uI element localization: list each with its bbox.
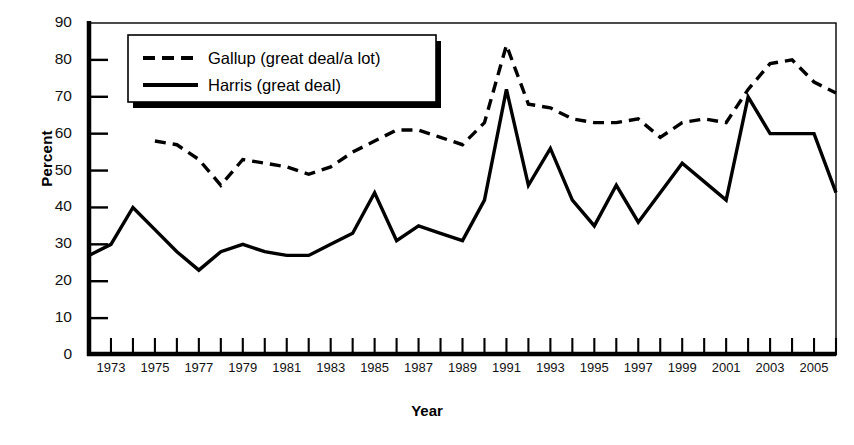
- y-axis-tick-marks: [89, 60, 108, 318]
- legend-label-harris: Harris (great deal): [208, 76, 341, 94]
- chart-figure: Percent Year 0102030405060708090 1973197…: [0, 0, 854, 445]
- series-line-harris: [89, 89, 836, 270]
- legend-label-gallup: Gallup (great deal/a lot): [208, 49, 380, 67]
- chart-canvas: Gallup (great deal/a lot) Harris (great …: [0, 0, 854, 445]
